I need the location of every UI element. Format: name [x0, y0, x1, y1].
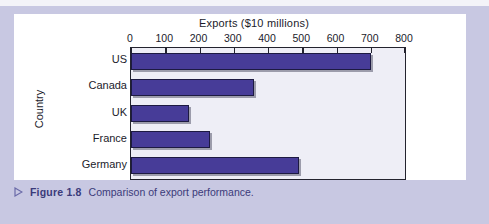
- y-category-label: Canada: [47, 79, 127, 91]
- y-category-label: UK: [47, 106, 127, 118]
- figure-caption: Figure 1.8 Comparison of export performa…: [14, 186, 254, 198]
- y-axis-category-labels: USCanadaUKFranceGermany: [45, 47, 127, 178]
- bar-canada: [131, 79, 254, 96]
- y-axis-title: Country: [33, 90, 45, 129]
- figure-white-box: Exports ($10 millions) 01002003004005006…: [14, 14, 466, 180]
- x-tick-label: 400: [258, 32, 276, 44]
- bar-row: [131, 131, 405, 148]
- x-tick-label: 500: [292, 32, 310, 44]
- caption-figure-number: Figure 1.8: [30, 186, 82, 198]
- caption-description: Comparison of export performance.: [89, 186, 254, 198]
- x-tick-label: 600: [327, 32, 345, 44]
- x-tick-label: 800: [395, 32, 413, 44]
- y-category-label: Germany: [47, 158, 127, 170]
- bar-uk: [131, 105, 189, 122]
- chart-title: Exports ($10 millions): [114, 17, 394, 29]
- plot-area: [130, 47, 406, 180]
- bar-us: [131, 53, 371, 70]
- plot-inner: [131, 48, 405, 179]
- x-tick-label: 700: [361, 32, 379, 44]
- page-top-edge: [0, 0, 489, 6]
- x-tick-label: 200: [190, 32, 208, 44]
- x-axis-tick-labels: 0100200300400500600700800: [14, 32, 466, 46]
- figure-page: Exports ($10 millions) 01002003004005006…: [0, 0, 489, 224]
- x-tick-label: 100: [155, 32, 173, 44]
- x-tick-label: 300: [224, 32, 242, 44]
- bar-row: [131, 105, 405, 122]
- y-category-label: US: [47, 53, 127, 65]
- y-category-label: France: [47, 132, 127, 144]
- bar-row: [131, 157, 405, 174]
- bar-germany: [131, 157, 299, 174]
- bar-row: [131, 53, 405, 70]
- triangle-right-icon: [14, 187, 23, 197]
- bar-row: [131, 79, 405, 96]
- x-tick-label: 0: [127, 32, 133, 44]
- bar-france: [131, 131, 210, 148]
